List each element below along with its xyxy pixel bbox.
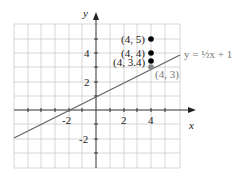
point-4-4: [148, 50, 154, 56]
x-tick-label: 4: [148, 115, 154, 126]
y-axis-label: y: [83, 8, 88, 19]
point-label: (4, 5): [121, 34, 145, 45]
point-4-3.4: [148, 58, 154, 64]
point-4-3: [148, 64, 154, 70]
y-tick-label: -2: [79, 134, 88, 145]
y-tick-label: 4: [84, 48, 90, 59]
coordinate-plane: [0, 0, 234, 180]
y-tick-label: 2: [84, 77, 90, 88]
x-axis-label: x: [189, 120, 194, 131]
x-tick-label: -2: [62, 115, 71, 126]
point-4-5: [148, 36, 154, 42]
axes: [14, 18, 190, 168]
y-axis-arrow-icon: [93, 12, 99, 20]
x-tick-label: 2: [121, 115, 127, 126]
point-label: (4, 3): [155, 69, 179, 80]
point-label: (4, 3.4): [113, 57, 145, 68]
line-equation-label: y = ½x + 1: [184, 49, 232, 60]
x-axis-arrow-icon: [188, 107, 196, 113]
